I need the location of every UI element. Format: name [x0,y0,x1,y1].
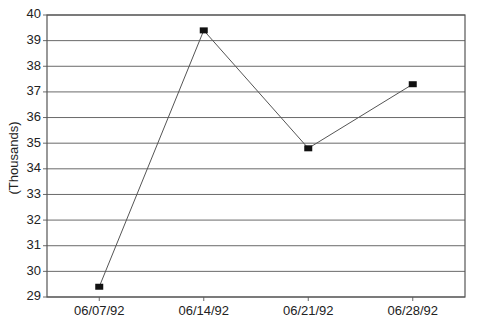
data-point-marker [200,27,208,33]
series-line [99,30,413,286]
y-axis-label: (Thousands) [6,122,21,195]
y-axis-ticks: 293031323334353637383940 [27,6,41,303]
data-point-marker [304,145,312,151]
y-tick-label: 32 [27,212,41,227]
y-tick-label: 29 [27,288,41,303]
x-axis-ticks: 06/07/9206/14/9206/21/9206/28/92 [74,297,438,318]
plot-frame [47,15,465,297]
x-tick-label: 06/28/92 [387,303,438,318]
y-tick-label: 36 [27,109,41,124]
y-tick-label: 39 [27,32,41,47]
y-tick-label: 34 [27,160,41,175]
y-tick-label: 40 [27,6,41,21]
gridlines [43,15,465,297]
x-tick-label: 06/14/92 [178,303,229,318]
line-chart: 293031323334353637383940 06/07/9206/14/9… [0,0,477,329]
y-tick-label: 30 [27,263,41,278]
y-tick-label: 33 [27,186,41,201]
y-tick-label: 31 [27,237,41,252]
x-tick-label: 06/07/92 [74,303,125,318]
y-tick-label: 37 [27,83,41,98]
y-tick-label: 35 [27,135,41,150]
data-point-marker [95,284,103,290]
x-tick-label: 06/21/92 [283,303,334,318]
data-point-marker [409,81,417,87]
y-tick-label: 38 [27,58,41,73]
